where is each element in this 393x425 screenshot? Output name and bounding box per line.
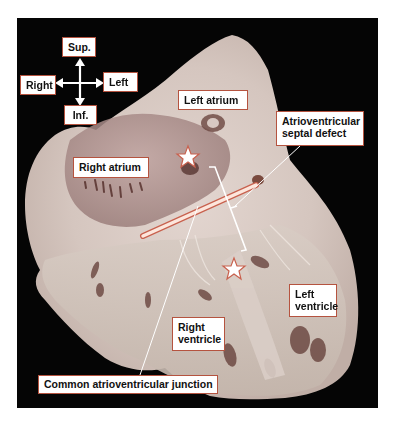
- orientation-right-label: Right: [20, 75, 56, 95]
- avsd-label-line1: Atrioventricular: [282, 115, 358, 127]
- left-atrium-label: Left atrium: [178, 90, 248, 110]
- left-ventricle-label-line2: ventricle: [295, 300, 331, 312]
- left-ventricle-label: Left ventricle: [289, 284, 337, 317]
- right-ventricle-label-line1: Right: [178, 321, 219, 333]
- orientation-arrows-icon: [55, 58, 104, 106]
- orientation-inf-label: Inf.: [64, 105, 97, 125]
- heart-specimen-image: [0, 0, 393, 425]
- orientation-left-label: Left: [103, 72, 138, 92]
- common-av-junction-label: Common atrioventricular junction: [38, 375, 218, 394]
- avsd-label-line2: septal defect: [282, 127, 358, 139]
- orientation-sup-label: Sup.: [62, 37, 96, 57]
- right-atrium-label: Right atrium: [73, 157, 149, 178]
- left-ventricle-label-line1: Left: [295, 288, 331, 300]
- right-ventricle-label-line2: ventricle: [178, 333, 219, 345]
- avsd-label: Atrioventricular septal defect: [276, 111, 364, 146]
- right-ventricle-label: Right ventricle: [172, 317, 225, 351]
